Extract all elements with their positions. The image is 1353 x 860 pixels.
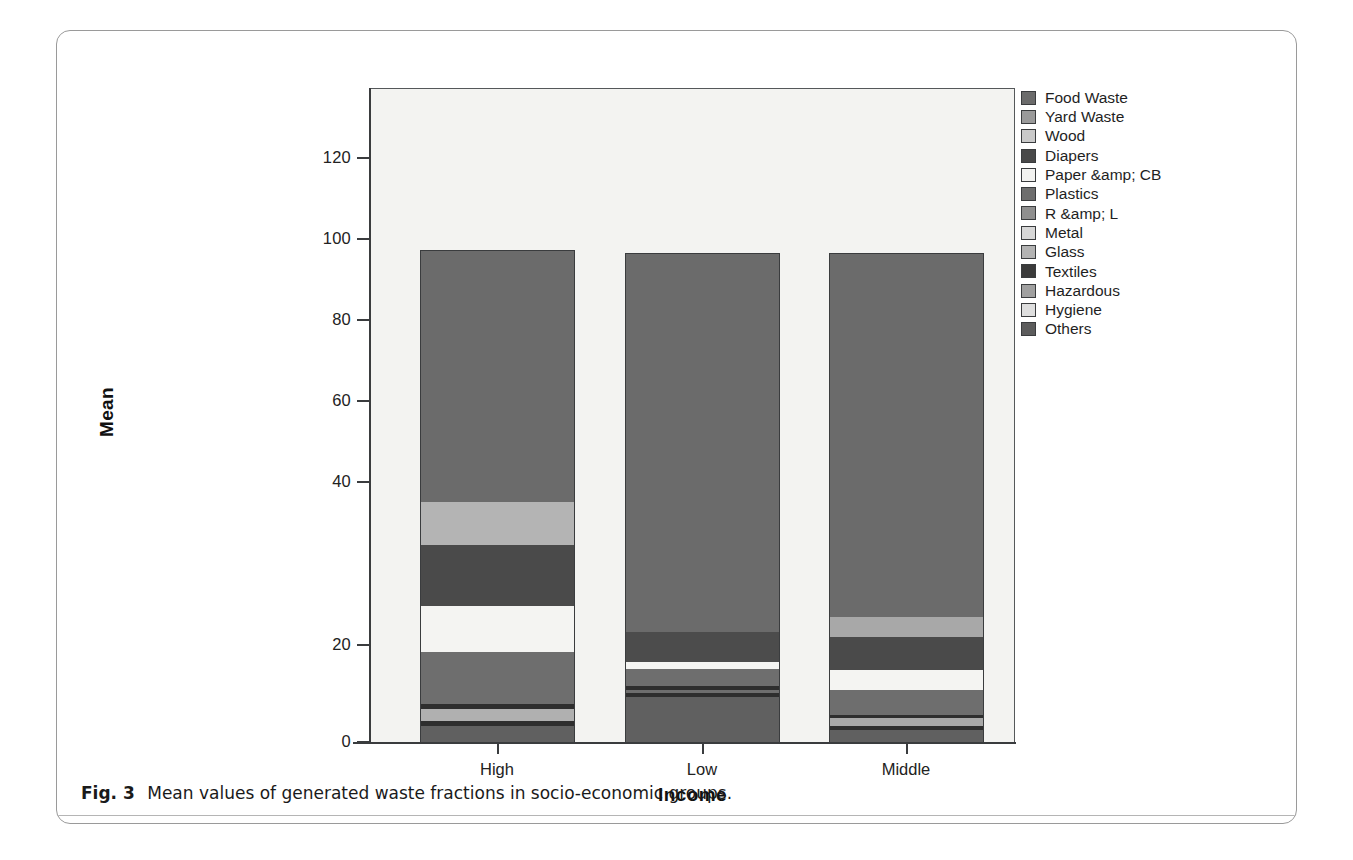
- legend-item[interactable]: Hygiene: [1021, 300, 1231, 319]
- bar-segment[interactable]: [626, 662, 779, 669]
- legend-swatch-icon: [1021, 245, 1036, 259]
- legend-swatch-icon: [1021, 264, 1036, 278]
- x-tick-label: Low: [632, 760, 772, 779]
- figure-caption: Fig. 3 Mean values of generated waste fr…: [81, 783, 1272, 803]
- bar-high[interactable]: [420, 250, 575, 743]
- y-tick-label: 100: [295, 229, 351, 248]
- y-tick-mark: [357, 644, 369, 646]
- y-tick-mark: [357, 319, 369, 321]
- legend-swatch-icon: [1021, 168, 1036, 182]
- y-tick-label: 20: [295, 635, 351, 654]
- legend-label: Diapers: [1045, 148, 1098, 164]
- bar-segment[interactable]: [626, 632, 779, 662]
- legend-item[interactable]: Glass: [1021, 242, 1231, 261]
- y-axis-title: Mean: [96, 342, 118, 482]
- legend-label: Hazardous: [1045, 283, 1120, 299]
- legend-swatch-icon: [1021, 149, 1036, 163]
- bar-segment[interactable]: [421, 606, 574, 652]
- x-tick-mark: [906, 743, 908, 754]
- y-tick-mark: [357, 238, 369, 240]
- bar-segment[interactable]: [421, 709, 574, 721]
- y-tick-label: 120: [295, 148, 351, 167]
- bar-segment[interactable]: [830, 617, 983, 637]
- y-tick-label: 80: [295, 310, 351, 329]
- legend-label: Paper &amp; CB: [1045, 167, 1161, 183]
- legend-swatch-icon: [1021, 91, 1036, 105]
- legend-label: Metal: [1045, 225, 1083, 241]
- y-tick-label: 60: [295, 391, 351, 410]
- bar-segment[interactable]: [830, 670, 983, 690]
- y-tick-mark: [357, 741, 369, 743]
- bar-segment[interactable]: [830, 690, 983, 715]
- legend-item[interactable]: Yard Waste: [1021, 107, 1231, 126]
- bar-segment[interactable]: [830, 730, 983, 743]
- legend-swatch-icon: [1021, 206, 1036, 220]
- figure-caption-text: Mean values of generated waste fractions…: [142, 783, 732, 803]
- legend-swatch-icon: [1021, 284, 1036, 298]
- bar-segment[interactable]: [421, 652, 574, 704]
- y-tick-mark: [357, 400, 369, 402]
- bar-middle[interactable]: [829, 253, 984, 743]
- bar-segment[interactable]: [421, 502, 574, 545]
- legend-item[interactable]: Hazardous: [1021, 281, 1231, 300]
- legend-label: Hygiene: [1045, 302, 1102, 318]
- y-tick-mark: [357, 481, 369, 483]
- legend-label: Wood: [1045, 128, 1085, 144]
- legend-label: Others: [1045, 321, 1092, 337]
- legend-swatch-icon: [1021, 226, 1036, 240]
- bar-segment[interactable]: [421, 251, 574, 502]
- bar-segment[interactable]: [626, 697, 779, 743]
- legend-item[interactable]: Diapers: [1021, 146, 1231, 165]
- legend-swatch-icon: [1021, 129, 1036, 143]
- legend-item[interactable]: Textiles: [1021, 262, 1231, 281]
- legend-swatch-icon: [1021, 110, 1036, 124]
- x-tick-label: Middle: [836, 760, 976, 779]
- legend-label: Food Waste: [1045, 90, 1128, 106]
- bar-segment[interactable]: [626, 669, 779, 686]
- figure-caption-label: Fig. 3: [81, 783, 135, 803]
- legend-item[interactable]: Others: [1021, 320, 1231, 339]
- legend-label: Yard Waste: [1045, 109, 1124, 125]
- legend-label: Plastics: [1045, 186, 1098, 202]
- y-axis-line: [369, 88, 371, 744]
- legend-item[interactable]: R &amp; L: [1021, 204, 1231, 223]
- bar-segment[interactable]: [421, 545, 574, 606]
- legend-swatch-icon: [1021, 187, 1036, 201]
- bar-segment[interactable]: [830, 637, 983, 670]
- legend-label: Textiles: [1045, 264, 1097, 280]
- x-tick-label: High: [427, 760, 567, 779]
- bar-low[interactable]: [625, 253, 780, 743]
- legend-swatch-icon: [1021, 322, 1036, 336]
- y-tick-label: 0: [295, 732, 351, 751]
- chart-legend: Food WasteYard WasteWoodDiapersPaper &am…: [1021, 88, 1231, 339]
- bar-segment[interactable]: [626, 254, 779, 632]
- x-tick-mark: [702, 743, 704, 754]
- legend-item[interactable]: Metal: [1021, 223, 1231, 242]
- chart-area: 120100806040200 HighLowMiddle Mean Incom…: [57, 31, 1296, 771]
- y-tick-mark: [357, 157, 369, 159]
- legend-item[interactable]: Plastics: [1021, 184, 1231, 203]
- legend-item[interactable]: Food Waste: [1021, 88, 1231, 107]
- y-tick-label: 40: [295, 472, 351, 491]
- x-tick-mark: [497, 743, 499, 754]
- bar-segment[interactable]: [830, 254, 983, 617]
- bar-segment[interactable]: [421, 726, 574, 743]
- legend-item[interactable]: Wood: [1021, 127, 1231, 146]
- legend-label: Glass: [1045, 244, 1085, 260]
- caption-divider: [57, 815, 1296, 816]
- legend-item[interactable]: Paper &amp; CB: [1021, 165, 1231, 184]
- legend-label: R &amp; L: [1045, 206, 1118, 222]
- figure-card: 120100806040200 HighLowMiddle Mean Incom…: [56, 30, 1297, 824]
- legend-swatch-icon: [1021, 303, 1036, 317]
- bar-segment[interactable]: [830, 718, 983, 726]
